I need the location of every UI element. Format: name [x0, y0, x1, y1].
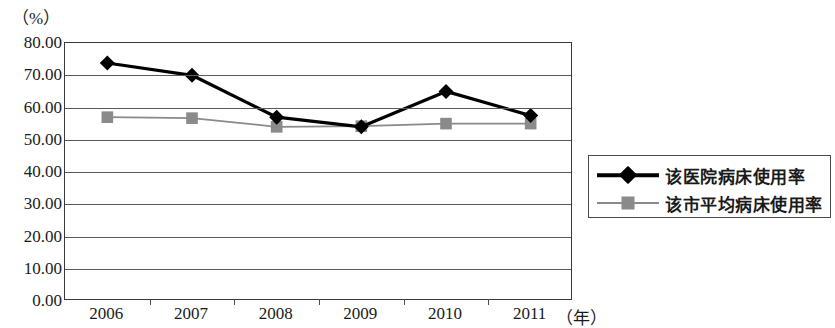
x-axis-unit-label: （年）	[556, 304, 607, 328]
plot-area	[64, 42, 572, 300]
x-tick-label: 2010	[428, 304, 462, 324]
legend-item-series-1: 该医院病床使用率	[597, 161, 822, 189]
y-tick-label: 30.00	[4, 195, 62, 212]
gridline	[65, 108, 571, 109]
data-point-diamond	[439, 84, 454, 99]
x-tick-label: 2006	[89, 304, 123, 324]
x-tick	[488, 299, 489, 305]
x-tick	[404, 299, 405, 305]
legend-label-series-2: 该市平均病床使用率	[665, 191, 823, 216]
y-tick-label: 0.00	[4, 292, 62, 309]
x-tick-label: 2011	[513, 304, 546, 324]
x-tick-label: 2009	[343, 304, 377, 324]
x-tick	[150, 299, 151, 305]
chart-figure: （%） 80.0070.0060.0050.0040.0030.0020.001…	[0, 0, 835, 328]
square-marker-icon	[597, 194, 659, 212]
gridline	[65, 204, 571, 205]
data-point-square	[102, 111, 114, 123]
legend-item-series-2: 该市平均病床使用率	[597, 189, 822, 217]
y-tick-label: 50.00	[4, 130, 62, 147]
x-tick	[234, 299, 235, 305]
x-tick	[319, 299, 320, 305]
y-tick-label: 40.00	[4, 163, 62, 180]
data-point-square	[440, 118, 452, 130]
y-axis-tick-labels: 80.0070.0060.0050.0040.0030.0020.0010.00…	[0, 0, 62, 328]
y-tick-label: 20.00	[4, 227, 62, 244]
x-tick-label: 2008	[259, 304, 293, 324]
gridline	[65, 269, 571, 270]
y-tick-label: 10.00	[4, 259, 62, 276]
y-tick-label: 80.00	[4, 34, 62, 51]
gridline	[65, 172, 571, 173]
y-tick-label: 60.00	[4, 98, 62, 115]
chart-legend: 该医院病床使用率 该市平均病床使用率	[588, 155, 831, 218]
y-tick-label: 70.00	[4, 66, 62, 83]
legend-label-series-1: 该医院病床使用率	[665, 163, 805, 188]
data-point-square	[186, 112, 198, 124]
data-point-diamond	[100, 55, 115, 70]
diamond-marker-icon	[597, 166, 659, 184]
x-tick-label: 2007	[174, 304, 208, 324]
gridline	[65, 140, 571, 141]
gridline	[65, 75, 571, 76]
gridline	[65, 237, 571, 238]
